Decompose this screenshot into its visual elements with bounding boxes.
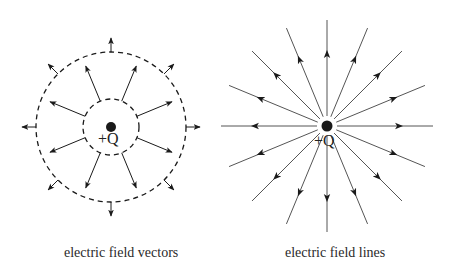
outer-field-vector-arrow [48,180,58,190]
charge-label: +Q [314,132,335,149]
vectors-caption: electric field vectors [64,245,178,261]
inner-field-vector-arrow [122,66,137,101]
inner-field-vector-arrow [122,153,137,188]
outer-field-vector-arrow [48,64,58,74]
point-charge-dot [322,121,333,132]
outer-field-vector-arrow [164,64,174,74]
inner-field-vector-arrow [50,102,85,117]
inner-field-vector-arrow [86,66,101,101]
field-lines-diagram: +Q [221,20,433,232]
charge-label: +Q [98,130,119,147]
outer-field-vector-arrow [164,180,174,190]
inner-field-vector-arrow [137,102,172,117]
field-vectors-diagram: +Q [22,38,200,216]
lines-caption: electric field lines [285,245,385,261]
inner-field-vector-arrow [86,153,101,188]
inner-field-vector-arrow [50,138,85,153]
electric-field-diagram: +Q +Q [0,0,452,271]
inner-field-vector-arrow [137,138,172,153]
